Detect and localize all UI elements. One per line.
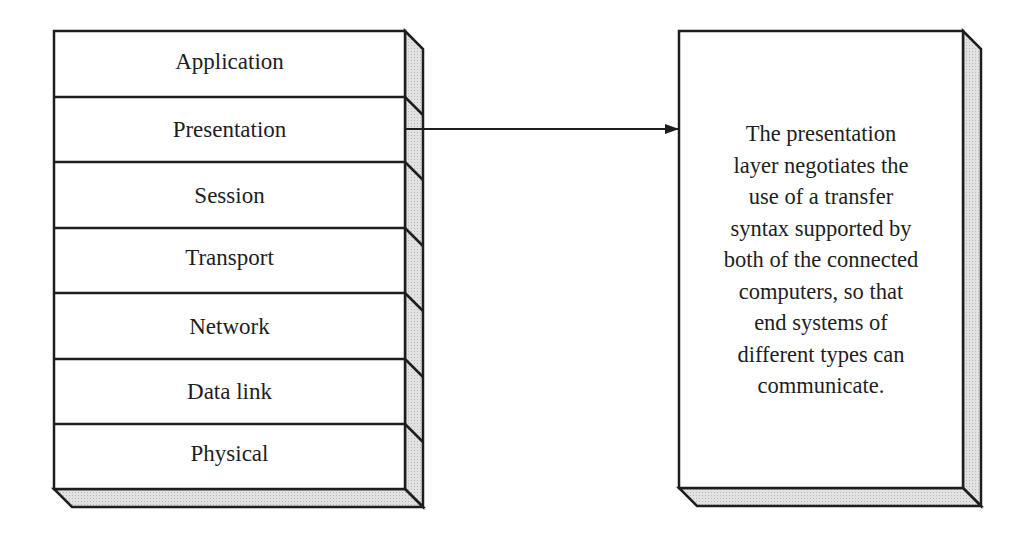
description-line: computers, so that xyxy=(681,276,961,308)
description-line: end systems of xyxy=(681,307,961,339)
layer-network: Network xyxy=(54,314,405,340)
presentation-layer-description: The presentation layer negotiates the us… xyxy=(681,118,961,402)
layer-transport: Transport xyxy=(54,245,405,271)
description-line: layer negotiates the xyxy=(681,150,961,182)
description-line: communicate. xyxy=(681,370,961,402)
layer-presentation: Presentation xyxy=(54,117,405,143)
layer-session: Session xyxy=(54,183,405,209)
layer-application: Application xyxy=(54,49,405,75)
description-line: The presentation xyxy=(681,118,961,150)
layer-physical: Physical xyxy=(54,441,405,467)
description-line: use of a transfer xyxy=(681,181,961,213)
description-line: different types can xyxy=(681,339,961,371)
layer-data-link: Data link xyxy=(54,379,405,405)
description-line: both of the connected xyxy=(681,244,961,276)
description-line: syntax supported by xyxy=(681,213,961,245)
